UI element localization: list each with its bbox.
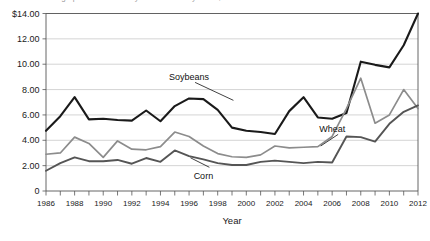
xtick-label: 1996: [180, 199, 198, 208]
xtick-label: 1990: [94, 199, 112, 208]
ytick-label: 2.00: [22, 161, 40, 171]
chart-container: Average prices received by farmers for s…: [0, 0, 430, 241]
ytick-label: 8.00: [22, 85, 40, 95]
xtick-label: 2006: [323, 199, 341, 208]
xtick-label: 2012: [409, 199, 427, 208]
ytick-label: 10.00: [17, 59, 40, 69]
xtick-label: 2000: [237, 199, 255, 208]
line-chart: 02.004.006.008.0010.0012.00$14.001986198…: [0, 0, 430, 241]
xtick-label: 2004: [295, 199, 313, 208]
xtick-label: 1994: [152, 199, 170, 208]
xtick-label: 1988: [66, 199, 84, 208]
annotation-label-corn: Corn: [194, 171, 214, 181]
ytick-label: 4.00: [22, 135, 40, 145]
xtick-label: 1986: [37, 199, 55, 208]
series-line-soybeans: [46, 14, 418, 134]
ytick-label: 0: [34, 186, 39, 196]
xtick-label: 2008: [352, 199, 370, 208]
xtick-label: 2010: [380, 199, 398, 208]
ytick-label: 6.00: [22, 110, 40, 120]
annotation-leader-soybeans: [195, 82, 233, 100]
x-axis-title: Year: [222, 215, 241, 226]
ytick-label: 12.00: [17, 34, 40, 44]
annotation-label-wheat: Wheat: [319, 124, 346, 134]
annotation-label-soybeans: Soybeans: [169, 72, 210, 82]
xtick-label: 1992: [123, 199, 141, 208]
xtick-label: 1998: [209, 199, 227, 208]
xtick-label: 2002: [266, 199, 284, 208]
ytick-label: $14.00: [12, 9, 40, 19]
